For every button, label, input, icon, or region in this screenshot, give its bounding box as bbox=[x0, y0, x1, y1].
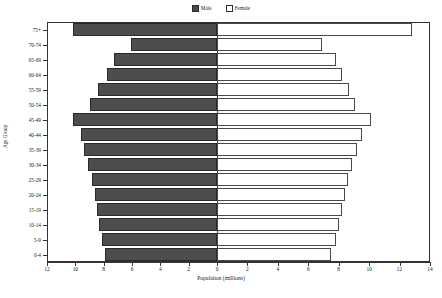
y-axis-tick-label-70-74: 70-74 bbox=[29, 41, 41, 48]
bar-female-15-19 bbox=[217, 203, 342, 215]
bar-row bbox=[0, 158, 442, 170]
bar-row bbox=[0, 203, 442, 215]
bar-female-25-29 bbox=[217, 173, 348, 185]
bar-female-65-69 bbox=[217, 53, 336, 65]
bar-row bbox=[0, 83, 442, 95]
y-axis-title: Age Group bbox=[2, 111, 9, 163]
x-axis-title: Population (millions) bbox=[0, 274, 442, 282]
x-axis-tick-label-8: 8 bbox=[337, 266, 340, 273]
x-axis-tick-label-6: 6 bbox=[131, 266, 134, 273]
x-axis-tick-label-12: 12 bbox=[44, 266, 49, 273]
bar-female-55-59 bbox=[217, 83, 349, 95]
y-axis-tick-label-75+: 75+ bbox=[33, 26, 41, 33]
bar-male-30-34 bbox=[88, 158, 217, 170]
bar-male-5-9 bbox=[102, 233, 217, 245]
bar-male-40-44 bbox=[81, 128, 217, 140]
y-axis-tick-label-15-19: 15-19 bbox=[29, 206, 41, 213]
bar-male-70-74 bbox=[131, 38, 217, 50]
y-axis-tick-label-5-9: 5-9 bbox=[34, 236, 41, 243]
bar-female-20-24 bbox=[217, 188, 345, 200]
bar-male-60-64 bbox=[107, 68, 218, 80]
x-axis-tick-label-14: 14 bbox=[427, 266, 432, 273]
bar-row bbox=[0, 98, 442, 110]
y-axis-tick-label-30-34: 30-34 bbox=[29, 161, 41, 168]
bar-female-5-9 bbox=[217, 233, 336, 245]
x-axis: 1210864202468101214 bbox=[0, 262, 442, 263]
bar-female-35-39 bbox=[217, 143, 357, 155]
bar-row bbox=[0, 218, 442, 230]
bar-male-55-59 bbox=[98, 83, 217, 95]
bar-female-50-54 bbox=[217, 98, 355, 110]
y-axis-tick-label-45-49: 45-49 bbox=[29, 116, 41, 123]
x-axis-tick-label-10: 10 bbox=[366, 266, 371, 273]
x-axis-tick-label-10: 10 bbox=[73, 266, 78, 273]
bar-male-75+ bbox=[73, 23, 218, 35]
bar-female-10-14 bbox=[217, 218, 339, 230]
bar-row bbox=[0, 53, 442, 65]
bar-male-50-54 bbox=[90, 98, 218, 110]
x-axis-tick bbox=[430, 262, 431, 266]
bars-layer bbox=[0, 0, 442, 298]
bar-row bbox=[0, 173, 442, 185]
bar-row bbox=[0, 233, 442, 245]
bar-row bbox=[0, 248, 442, 260]
bar-female-30-34 bbox=[217, 158, 352, 170]
bar-female-45-49 bbox=[217, 113, 371, 125]
bar-male-0-4 bbox=[105, 248, 217, 260]
y-axis-tick-label-20-24: 20-24 bbox=[29, 191, 41, 198]
bar-male-65-69 bbox=[114, 53, 217, 65]
bar-row bbox=[0, 113, 442, 125]
y-axis-tick-label-65-69: 65-69 bbox=[29, 56, 41, 63]
bar-female-60-64 bbox=[217, 68, 342, 80]
bar-row bbox=[0, 143, 442, 155]
bar-row bbox=[0, 38, 442, 50]
population-pyramid-chart: Male Female 0-45-910-1415-1920-2425-2930… bbox=[0, 0, 442, 298]
x-axis-line bbox=[47, 262, 430, 263]
bar-male-15-19 bbox=[97, 203, 217, 215]
y-axis-tick-label-60-64: 60-64 bbox=[29, 71, 41, 78]
x-axis-tick-label-12: 12 bbox=[397, 266, 402, 273]
y-axis-tick-label-35-39: 35-39 bbox=[29, 146, 41, 153]
x-axis-tick-label-4: 4 bbox=[276, 266, 279, 273]
bar-female-0-4 bbox=[217, 248, 331, 260]
x-axis-tick-label-8: 8 bbox=[102, 266, 105, 273]
bar-female-70-74 bbox=[217, 38, 322, 50]
bar-male-35-39 bbox=[84, 143, 217, 155]
bar-male-25-29 bbox=[92, 173, 217, 185]
bar-male-20-24 bbox=[95, 188, 217, 200]
x-axis-tick-label-2: 2 bbox=[246, 266, 249, 273]
bar-row bbox=[0, 23, 442, 35]
bar-row bbox=[0, 128, 442, 140]
bar-male-45-49 bbox=[73, 113, 218, 125]
bar-female-75+ bbox=[217, 23, 412, 35]
y-axis-tick-label-40-44: 40-44 bbox=[29, 131, 41, 138]
y-axis-tick-label-10-14: 10-14 bbox=[29, 221, 41, 228]
bar-row bbox=[0, 188, 442, 200]
y-axis-tick-label-0-4: 0-4 bbox=[34, 251, 41, 258]
x-axis-tick-label-2: 2 bbox=[187, 266, 190, 273]
bar-row bbox=[0, 68, 442, 80]
x-axis-tick-label-4: 4 bbox=[159, 266, 162, 273]
x-axis-tick-label-6: 6 bbox=[307, 266, 310, 273]
x-axis-tick-label-0: 0 bbox=[216, 266, 219, 273]
bar-male-10-14 bbox=[99, 218, 217, 230]
y-axis-tick-label-25-29: 25-29 bbox=[29, 176, 41, 183]
bar-female-40-44 bbox=[217, 128, 362, 140]
y-axis-tick-label-50-54: 50-54 bbox=[29, 101, 41, 108]
y-axis-tick-label-55-59: 55-59 bbox=[29, 86, 41, 93]
